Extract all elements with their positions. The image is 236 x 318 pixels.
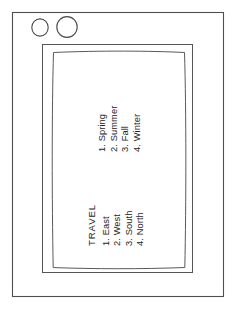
travel-list-item: 1. East [101, 204, 113, 246]
seasons-list-item: 3. Fall [120, 106, 132, 152]
seasons-list-item: 4. Winter [132, 106, 144, 152]
camera-icon [32, 19, 48, 36]
travel-list: TRAVEL 1. East 2. West 3. South 4. North [86, 204, 147, 246]
device-sketch [0, 0, 236, 318]
seasons-list: 1. Spring 2. Summer 3. Fall 4. Winter [97, 106, 143, 152]
travel-list-heading: TRAVEL [86, 204, 101, 246]
travel-list-item: 3. South [124, 204, 136, 246]
seasons-list-item: 2. Summer [109, 106, 121, 152]
speaker-icon [57, 17, 77, 38]
travel-list-item: 2. West [112, 204, 124, 246]
screenshot-root: 1. Spring 2. Summer 3. Fall 4. Winter TR… [0, 0, 236, 318]
seasons-list-item: 1. Spring [97, 106, 109, 152]
travel-list-item: 4. North [135, 204, 147, 246]
